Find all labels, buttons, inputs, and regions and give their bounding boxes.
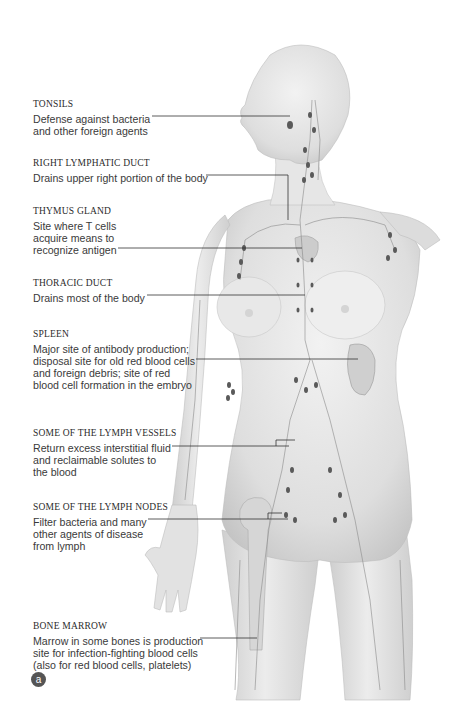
label-heading: BONE MARROW — [33, 621, 203, 632]
label-heading: THYMUS GLAND — [33, 206, 117, 217]
label-right-lymphatic-duct: RIGHT LYMPHATIC DUCT Drains upper right … — [33, 158, 208, 184]
label-description: Return excess interstitial fluid and rec… — [33, 442, 177, 478]
label-heading: RIGHT LYMPHATIC DUCT — [33, 158, 208, 169]
label-description: Drains upper right portion of the body — [33, 172, 208, 184]
label-description: Marrow in some bones is production site … — [33, 635, 203, 671]
label-heading: TONSILS — [33, 99, 150, 110]
head — [241, 45, 350, 164]
label-description: Drains most of the body — [33, 292, 145, 304]
label-description: Site where T cells acquire means to reco… — [33, 220, 117, 256]
label-lymph-vessels: SOME OF THE LYMPH VESSELS Return excess … — [33, 428, 177, 478]
label-lymph-nodes: SOME OF THE LYMPH NODES Filter bacteria … — [33, 502, 168, 552]
label-thymus-gland: THYMUS GLAND Site where T cells acquire … — [33, 206, 117, 256]
label-heading: SOME OF THE LYMPH VESSELS — [33, 428, 177, 439]
label-description: Filter bacteria and many other agents of… — [33, 516, 168, 552]
panel-label-badge: a — [31, 672, 46, 687]
label-thoracic-duct: THORACIC DUCT Drains most of the body — [33, 278, 145, 304]
label-heading: SPLEEN — [33, 329, 195, 340]
label-description: Defense against bacteria and other forei… — [33, 113, 150, 137]
label-bone-marrow: BONE MARROW Marrow in some bones is prod… — [33, 621, 203, 671]
label-heading: THORACIC DUCT — [33, 278, 145, 289]
label-spleen: SPLEEN Major site of antibody production… — [33, 329, 195, 391]
label-tonsils: TONSILS Defense against bacteria and oth… — [33, 99, 150, 137]
label-heading: SOME OF THE LYMPH NODES — [33, 502, 168, 513]
lymphatic-system-figure: TONSILS Defense against bacteria and oth… — [0, 0, 464, 713]
label-description: Major site of antibody production; dispo… — [33, 343, 195, 391]
breast-right — [217, 277, 281, 337]
